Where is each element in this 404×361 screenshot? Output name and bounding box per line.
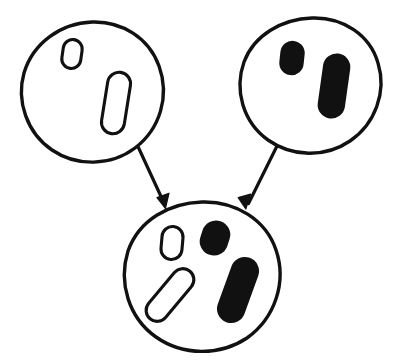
child-gene-small-open: [160, 226, 184, 261]
diagram-canvas: [0, 0, 404, 361]
node-parent-right[interactable]: [240, 18, 381, 153]
parent-right-outline: [240, 18, 381, 153]
gene-filled-small-shape: [279, 41, 304, 75]
edge-right[interactable]: [238, 144, 278, 209]
parent-left-gene-small-open: [61, 38, 84, 69]
edge-right-arrowhead: [238, 194, 250, 209]
edge-left[interactable]: [138, 147, 169, 209]
parent-right-gene-small-filled: [279, 41, 304, 75]
node-parent-left[interactable]: [21, 22, 163, 162]
parent-left-outline: [21, 22, 163, 162]
child-gene-open-small-shape: [160, 226, 184, 261]
edge-layer: [138, 144, 278, 209]
edge-right-line: [249, 144, 279, 204]
node-child[interactable]: [124, 202, 280, 351]
gene-open-small-shape: [61, 38, 84, 69]
edge-left-line: [138, 147, 164, 203]
diagram-svg: [0, 0, 404, 361]
